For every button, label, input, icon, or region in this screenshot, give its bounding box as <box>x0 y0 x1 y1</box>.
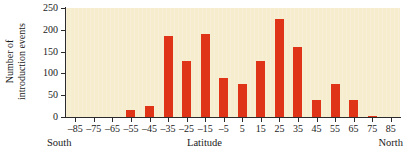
x-tick-mark <box>335 118 336 122</box>
bar <box>349 100 358 117</box>
y-tick-mark <box>61 117 66 118</box>
bar <box>145 106 154 117</box>
y-axis-title-line-1: Number of <box>4 23 16 100</box>
x-tick-mark <box>205 118 206 122</box>
y-tick-mark <box>61 95 66 96</box>
y-tick-label: 100 <box>18 68 58 78</box>
x-tick-mark <box>168 118 169 122</box>
bar <box>238 84 247 117</box>
y-axis-line <box>65 7 66 118</box>
bar <box>293 47 302 117</box>
x-tick-mark <box>354 118 355 122</box>
bar <box>331 84 340 117</box>
x-tick-mark <box>131 118 132 122</box>
x-axis-label: Latitude <box>187 137 222 149</box>
x-tick-mark <box>150 118 151 122</box>
y-tick-label: 250 <box>18 3 58 13</box>
bar <box>368 116 377 117</box>
x-tick-mark <box>242 118 243 122</box>
x-tick-mark <box>261 118 262 122</box>
x-tick-mark <box>298 118 299 122</box>
bar <box>182 61 191 117</box>
bar <box>126 110 135 117</box>
bar <box>201 34 210 117</box>
chart-figure: Number of introduction events 0501001502… <box>0 0 409 153</box>
bar <box>256 61 265 117</box>
y-tick-mark <box>61 8 66 9</box>
bar <box>312 100 321 117</box>
y-axis-title: Number of introduction events <box>0 0 30 122</box>
x-tick-mark <box>224 118 225 122</box>
x-tick-mark <box>317 118 318 122</box>
caption-north: North <box>379 137 404 149</box>
y-tick-mark <box>61 30 66 31</box>
x-axis-line <box>65 117 401 118</box>
x-tick-mark <box>372 118 373 122</box>
bar <box>275 19 284 117</box>
x-tick-label: 85 <box>376 123 406 134</box>
x-tick-mark <box>187 118 188 122</box>
y-tick-label: 0 <box>18 112 58 122</box>
y-tick-label: 150 <box>18 47 58 57</box>
y-tick-label: 200 <box>18 25 58 35</box>
x-tick-mark <box>391 118 392 122</box>
bar <box>219 78 228 117</box>
bar <box>164 36 173 117</box>
x-tick-mark <box>75 118 76 122</box>
y-tick-label: 50 <box>18 90 58 100</box>
x-tick-mark <box>94 118 95 122</box>
y-tick-mark <box>61 73 66 74</box>
x-tick-mark <box>112 118 113 122</box>
y-tick-mark <box>61 52 66 53</box>
x-tick-mark <box>279 118 280 122</box>
caption-south: South <box>47 137 72 149</box>
